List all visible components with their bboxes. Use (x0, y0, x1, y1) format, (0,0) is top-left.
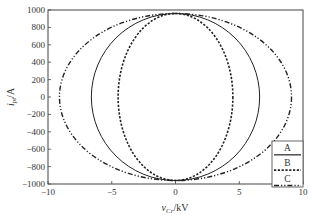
y-axis-label: ipt/A (5, 87, 18, 106)
y-tick-label: 400 (32, 57, 46, 67)
y-tick-label: 800 (32, 22, 46, 32)
y-tick-label: 200 (32, 75, 46, 85)
x-tick-label: 10 (299, 187, 309, 197)
legend-label-a: A (284, 143, 291, 153)
x-axis-label: vCr/kV (162, 202, 190, 215)
y-tick-label: 600 (32, 40, 46, 50)
x-tick-label: 5 (237, 187, 242, 197)
legend-label-b: B (284, 158, 290, 168)
x-tick-label: −10 (41, 187, 56, 197)
x-axis: −10−50510 (41, 181, 308, 197)
legend: ABC (272, 141, 303, 187)
y-tick-label: −400 (26, 127, 45, 137)
y-tick-label: −800 (26, 162, 45, 172)
curve-a (91, 13, 259, 180)
y-tick-label: −600 (26, 144, 45, 154)
y-tick-label: 0 (41, 92, 46, 102)
x-tick-label: 0 (173, 187, 178, 197)
y-tick-label: −200 (26, 109, 45, 119)
curve-c (59, 13, 291, 180)
y-axis: 10008006004002000−200−400−600−800−1000 (22, 5, 51, 189)
y-tick-label: 1000 (27, 5, 46, 15)
legend-label-c: C (284, 174, 290, 184)
curve-b (118, 13, 233, 180)
plot-frame (48, 10, 303, 184)
chart: 10008006004002000−200−400−600−800−1000 −… (0, 0, 311, 221)
x-tick-label: −5 (107, 187, 117, 197)
curves (59, 13, 291, 180)
